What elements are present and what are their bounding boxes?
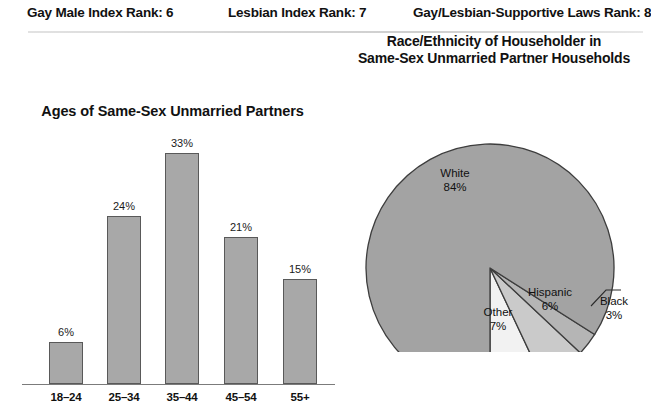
bar-3 xyxy=(165,153,199,384)
pie-slice-label-hispanic: Hispanic 6% xyxy=(516,285,584,313)
bar-value-label-2: 24% xyxy=(99,200,149,212)
pie-slice-name-white: White xyxy=(425,166,485,180)
pie-slice-name-hispanic: Hispanic xyxy=(516,285,584,299)
pie-chart-title-line-1: Race/Ethnicity of Householder in xyxy=(387,33,602,49)
pie-slice-label-white: White 84% xyxy=(425,166,485,194)
bar-category-label-4: 45–54 xyxy=(211,391,271,403)
pie-chart-title-line-2: Same-Sex Unmarried Partner Households xyxy=(358,50,630,66)
bar-chart-panel: Ages of Same-Sex Unmarried Partners 6%18… xyxy=(0,46,345,407)
bar-chart-x-axis xyxy=(22,384,335,385)
pie-slice-value-black: 3% xyxy=(589,308,639,322)
bar-5 xyxy=(283,279,317,384)
bar-category-label-3: 35–44 xyxy=(152,391,212,403)
bar-category-label-5: 55+ xyxy=(270,391,330,403)
pie-slice-name-black: Black xyxy=(589,294,639,308)
bar-value-label-1: 6% xyxy=(41,326,91,338)
lesbian-index-rank: Lesbian Index Rank: 7 xyxy=(228,5,366,20)
bar-1 xyxy=(49,342,83,384)
bar-category-label-1: 18–24 xyxy=(36,391,96,403)
pie-slice-value-white: 84% xyxy=(425,180,485,194)
bar-value-label-5: 15% xyxy=(275,263,325,275)
gay-male-index-rank: Gay Male Index Rank: 6 xyxy=(27,5,173,20)
pie-slice-label-black: Black 3% xyxy=(589,294,639,322)
bar-4 xyxy=(224,237,258,384)
pie-slice-value-other: 7% xyxy=(472,319,524,333)
pie-chart-title: Race/Ethnicity of Householder in Same-Se… xyxy=(349,33,639,67)
supportive-laws-rank: Gay/Lesbian-Supportive Laws Rank: 8 xyxy=(413,5,651,20)
bar-category-label-2: 25–34 xyxy=(94,391,154,403)
bar-chart-title: Ages of Same-Sex Unmarried Partners xyxy=(0,103,345,119)
bar-2 xyxy=(107,216,141,384)
bar-value-label-4: 21% xyxy=(216,221,266,233)
bar-value-label-3: 33% xyxy=(157,137,207,149)
pie-slice-value-hispanic: 6% xyxy=(516,299,584,313)
